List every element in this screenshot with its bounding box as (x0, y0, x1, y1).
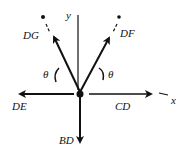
force-bd-label: BD (59, 134, 74, 146)
dg-member-extension (46, 24, 50, 33)
force-dg-label: DG (22, 29, 39, 41)
theta-arc-left (55, 68, 59, 82)
theta-arc-right (99, 68, 104, 80)
x-axis-dash (159, 93, 168, 95)
y-axis-label: y (65, 9, 71, 21)
force-df-arrow (80, 38, 109, 92)
force-cd-label: CD (115, 100, 130, 112)
theta-label-left: θ (43, 68, 49, 80)
theta-label-right: θ (108, 68, 114, 80)
free-body-diagram: y DG DF θ θ DE CD x BD (0, 0, 185, 153)
g-point (41, 15, 45, 19)
force-dg-arrow (54, 37, 80, 92)
df-member-extension (113, 24, 117, 32)
joint-d (77, 91, 84, 98)
f-point (117, 15, 121, 19)
x-axis-label: x (170, 94, 176, 106)
force-de-label: DE (11, 100, 27, 112)
force-df-label: DF (119, 27, 135, 39)
